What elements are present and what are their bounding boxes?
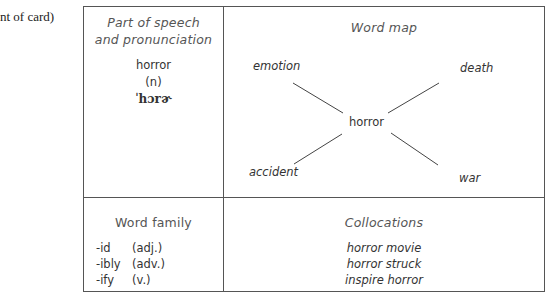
collocation-item: horror movie <box>224 240 544 256</box>
part-of-speech-value: (n) <box>84 74 223 91</box>
word-family-heading: Word family <box>84 214 223 231</box>
word-family-item: -ibly (adv.) <box>96 256 223 272</box>
word-map-node-top-right: death <box>460 61 493 75</box>
connector-bottom-left <box>294 134 342 164</box>
word-family-cell: Word family -id (adj.) -ibly (adv.) -ify… <box>84 198 224 291</box>
connector-top-left <box>293 83 343 113</box>
word-map-node-bottom-left: accident <box>249 165 298 179</box>
suffix: -ify <box>96 272 132 288</box>
suffix-pos: (v.) <box>132 272 151 288</box>
pronunciation: ˈhɔrɚ <box>84 91 223 108</box>
word-map-center: horror <box>349 115 384 129</box>
collocation-item: horror struck <box>224 256 544 272</box>
word-family-item: -ify (v.) <box>96 272 223 288</box>
suffix: -id <box>96 240 132 256</box>
word-family-list: -id (adj.) -ibly (adv.) -ify (v.) <box>96 240 223 288</box>
word-map-cell: Word map emotion death horror accident w… <box>224 7 544 198</box>
collocations-list: horror movie horror struck inspire horro… <box>224 240 544 288</box>
suffix-pos: (adj.) <box>132 240 162 256</box>
collocations-cell: Collocations horror movie horror struck … <box>224 198 544 291</box>
card-caption: nt of card) <box>0 9 54 25</box>
collocation-item: inspire horror <box>224 272 544 288</box>
suffix-pos: (adv.) <box>132 256 165 272</box>
word-family-item: -id (adj.) <box>96 240 223 256</box>
heading-line-1: Part of speech <box>84 14 223 31</box>
collocations-heading: Collocations <box>224 214 544 231</box>
part-of-speech-body: horror (n) ˈhɔrɚ <box>84 57 223 108</box>
suffix: -ibly <box>96 256 132 272</box>
word-map-node-bottom-right: war <box>459 171 480 185</box>
heading-line-2: and pronunciation <box>84 31 223 48</box>
part-of-speech-cell: Part of speech and pronunciation horror … <box>84 7 224 198</box>
headword: horror <box>84 57 223 74</box>
connector-bottom-right <box>391 133 438 165</box>
part-of-speech-heading: Part of speech and pronunciation <box>84 14 223 48</box>
connector-top-right <box>388 83 439 113</box>
vocabulary-card: Part of speech and pronunciation horror … <box>83 6 545 292</box>
word-map-node-top-left: emotion <box>253 59 300 73</box>
